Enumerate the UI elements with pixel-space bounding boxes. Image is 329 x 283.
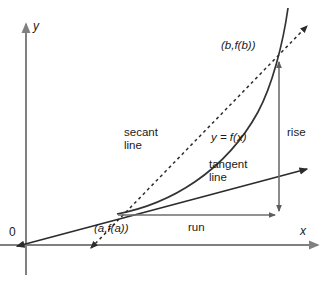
run-label: run [188,221,205,234]
origin-label: 0 [9,226,16,239]
secant-line-label-line1: secant [124,126,158,139]
secant-line-label-line2: line [124,139,142,152]
point-a-label: (a,f(a)) [94,222,129,235]
rise-label: rise [287,126,306,139]
tangent-line-label-line1: tangent [209,158,247,171]
function-curve [117,8,288,214]
point-b-label: (b,f(b)) [221,39,256,52]
secant-tangent-diagram: y x 0 (b,f(b)) (a,f(a)) y = f(x) secant … [0,0,329,283]
diagram-canvas [0,0,329,283]
curve-equation-label: y = f(x) [211,131,246,144]
x-axis-label: x [300,225,306,238]
tangent-line-label-line2: line [209,171,227,184]
tangent-line [17,169,307,246]
y-axis-label: y [33,20,39,33]
